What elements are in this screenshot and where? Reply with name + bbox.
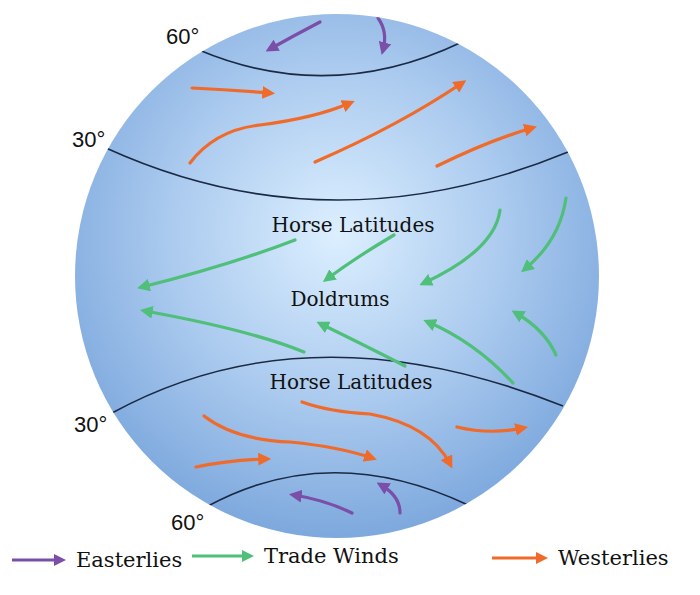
legend: Easterlies Trade Winds Westerlies <box>0 540 700 595</box>
zone-label-doldrums: Doldrums <box>291 287 390 311</box>
trade-winds-arrow-icon <box>190 549 256 563</box>
legend-item-easterlies: Easterlies <box>10 548 182 572</box>
latitude-label-south-30: 30° <box>74 412 107 437</box>
latitude-label-north-30: 30° <box>72 127 105 152</box>
legend-item-westerlies: Westerlies <box>490 546 669 570</box>
legend-label-westerlies: Westerlies <box>558 546 669 570</box>
legend-label-trade-winds: Trade Winds <box>264 544 399 568</box>
westerlies-arrow-icon <box>490 551 550 565</box>
zone-label-horse-latitudes-north: Horse Latitudes <box>272 213 435 237</box>
wind-belt-diagram: Horse Latitudes Doldrums Horse Latitudes… <box>0 0 700 595</box>
legend-label-easterlies: Easterlies <box>76 548 182 572</box>
globe <box>75 14 599 538</box>
easterlies-arrow-icon <box>10 553 68 567</box>
legend-item-trade-winds: Trade Winds <box>190 544 399 568</box>
zone-label-horse-latitudes-south: Horse Latitudes <box>270 370 433 394</box>
latitude-label-south-60: 60° <box>171 510 204 535</box>
latitude-label-north-60: 60° <box>166 24 199 49</box>
